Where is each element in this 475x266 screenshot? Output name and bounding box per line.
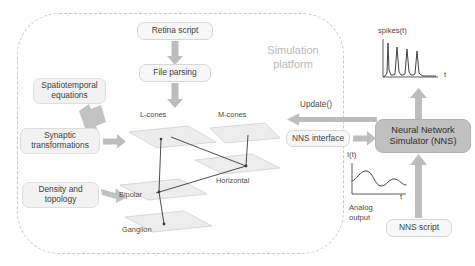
input-label-line2: transformations — [31, 140, 89, 150]
analog-trace — [352, 171, 406, 186]
plane-m-cones — [210, 123, 280, 143]
input-box-label: Spatiotemporal equations — [41, 81, 97, 101]
retina-layer-stack — [112, 110, 280, 235]
input-label-line1: Synaptic — [44, 130, 76, 140]
spikes-plot — [378, 37, 446, 85]
arrow-nns-to-spikes-plot — [409, 88, 428, 119]
retina-script-label: Retina script — [152, 26, 199, 36]
nns-script-box[interactable]: NNS script — [386, 219, 452, 237]
nns-simulator-line1: Neural Network — [391, 125, 454, 135]
arrow-retina-to-parsing — [166, 41, 184, 66]
input-box-density-and-topology[interactable]: Density and topology — [22, 182, 99, 208]
nns-simulator-box[interactable]: Neural Network Simulator (NNS) — [375, 119, 471, 153]
analog-plot — [348, 161, 414, 203]
platform-title-line2: platform — [246, 57, 340, 71]
layer-label-m-cones: M-cones — [218, 110, 246, 119]
spikes-plot-title: spikes(t) — [378, 26, 407, 35]
arrow-parsing-to-layers — [166, 83, 184, 109]
input-label-line2: equations — [51, 90, 87, 100]
input-box-synaptic-transformations[interactable]: Synaptic transformations — [20, 128, 100, 154]
layer-label-ganglion: Ganglion — [122, 225, 152, 234]
platform-title-line1: Simulation — [246, 43, 340, 57]
input-label-line1: Density and — [38, 184, 82, 194]
input-box-label: Synaptic transformations — [31, 131, 89, 151]
input-box-spatiotemporal-equations[interactable]: Spatiotemporal equations — [33, 78, 106, 104]
spikes-plot-x-label: t — [444, 70, 446, 79]
update-call-label: Update() — [300, 100, 332, 109]
input-box-label: Density and topology — [38, 185, 82, 205]
analog-plot-x-label: t — [400, 192, 402, 201]
input-label-line2: topology — [45, 194, 77, 204]
nns-interface-box[interactable]: NNS interface — [286, 130, 350, 147]
input-label-line1: Spatiotemporal — [41, 80, 97, 90]
retina-script-box[interactable]: Retina script — [137, 22, 213, 40]
file-parsing-label: File parsing — [153, 68, 196, 78]
nns-simulator-line2: Simulator (NNS) — [390, 136, 457, 146]
analog-caption-line2: output — [349, 213, 373, 223]
file-parsing-box[interactable]: File parsing — [139, 64, 211, 82]
spikes-trace — [383, 43, 436, 77]
nns-script-label: NNS script — [399, 223, 439, 233]
nns-interface-label: NNS interface — [292, 134, 344, 144]
layer-label-l-cones: L-cones — [140, 110, 166, 119]
plane-horizontal — [195, 154, 280, 174]
analog-plot-caption: Analog output — [349, 203, 373, 224]
layer-label-horizontal: Horizontal — [216, 176, 249, 185]
layer-label-bipolar: Bipolar — [119, 190, 142, 199]
analog-plot-title: I(t) — [347, 150, 356, 159]
plane-l-cones — [129, 126, 216, 148]
platform-title: Simulation platform — [246, 43, 340, 72]
arrow-update-leftward — [287, 113, 377, 126]
arrow-interface-to-nns — [353, 131, 377, 146]
nns-simulator-label: Neural Network Simulator (NNS) — [390, 125, 457, 148]
diagram-canvas: Simulation platform Retina script File p… — [0, 0, 475, 266]
analog-caption-line1: Analog — [349, 203, 373, 213]
